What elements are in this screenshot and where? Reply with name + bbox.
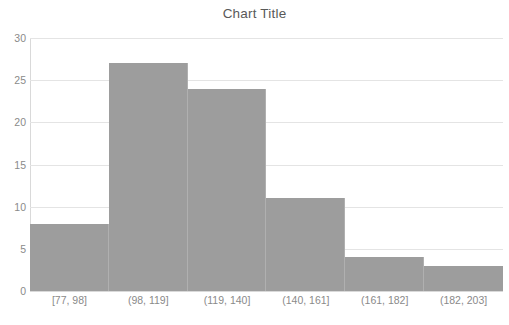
y-tick-label: 25 bbox=[0, 74, 26, 86]
bar[interactable] bbox=[109, 63, 188, 291]
x-tick-label: (140, 161] bbox=[266, 294, 345, 306]
x-tick-label: (119, 140] bbox=[188, 294, 267, 306]
bar-cell bbox=[188, 38, 267, 291]
bar-cell bbox=[424, 38, 503, 291]
y-tick-label: 20 bbox=[0, 116, 26, 128]
y-tick-label: 30 bbox=[0, 32, 26, 44]
y-tick-label: 5 bbox=[0, 243, 26, 255]
bar[interactable] bbox=[188, 89, 267, 291]
bar[interactable] bbox=[266, 198, 345, 291]
bar[interactable] bbox=[345, 257, 424, 291]
gridline-0 bbox=[30, 291, 503, 292]
y-tick-label: 15 bbox=[0, 159, 26, 171]
x-tick-label: (182, 203] bbox=[424, 294, 503, 306]
bar-cell bbox=[345, 38, 424, 291]
x-tick-label: (98, 119] bbox=[109, 294, 188, 306]
bar-series bbox=[30, 38, 503, 291]
y-tick-label: 0 bbox=[0, 285, 26, 297]
x-axis-labels: [77, 98](98, 119](119, 140](140, 161](16… bbox=[30, 294, 503, 306]
chart-title: Chart Title bbox=[0, 6, 509, 21]
bar[interactable] bbox=[424, 266, 503, 291]
x-tick-label: (161, 182] bbox=[345, 294, 424, 306]
bar-cell bbox=[30, 38, 109, 291]
bar-cell bbox=[266, 38, 345, 291]
bar[interactable] bbox=[30, 224, 109, 291]
x-tick-label: [77, 98] bbox=[30, 294, 109, 306]
bar-cell bbox=[109, 38, 188, 291]
y-tick-label: 10 bbox=[0, 201, 26, 213]
chart-container: Chart Title 051015202530 [77, 98](98, 11… bbox=[0, 0, 509, 325]
y-axis-labels: 051015202530 bbox=[0, 0, 26, 325]
plot-area bbox=[30, 38, 503, 291]
